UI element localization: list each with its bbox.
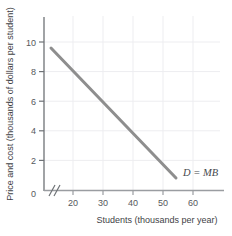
chart-figure: 10 8 6 4 2 0 20 30 40 50 60 D = MB Stude… [0,0,232,236]
y-axis-ticks [39,42,44,160]
x-tick-label-50: 50 [158,198,168,208]
y-tick-label-6: 6 [31,97,36,107]
x-tick-label-40: 40 [128,198,138,208]
y-tick-label-8: 8 [31,67,36,77]
x-axis-title: Students (thousands per year) [96,215,217,225]
y-axis-title: Price and cost (thousands of dollars per… [5,7,15,201]
y-tick-label-0: 0 [31,189,36,199]
curve-label-d-mb: D = MB [182,167,219,178]
x-tick-label-20: 20 [68,198,78,208]
x-tick-label-30: 30 [98,198,108,208]
chart-canvas: 10 8 6 4 2 0 20 30 40 50 60 D = MB Stude… [0,0,232,236]
y-tick-label-2: 2 [31,156,36,166]
x-tick-label-60: 60 [188,198,198,208]
y-tick-label-4: 4 [31,126,36,136]
y-tick-label-10: 10 [26,38,36,48]
